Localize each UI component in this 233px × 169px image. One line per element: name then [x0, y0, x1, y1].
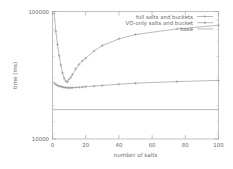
x-tick-label-80: 80	[182, 142, 189, 148]
line-chart: 100000 10000 020406080100 number of salt…	[0, 0, 233, 169]
x-tick-label-60: 60	[149, 142, 156, 148]
y-tick-label-100000: 100000	[28, 9, 49, 15]
x-axis-title: number of salts	[114, 152, 158, 158]
legend-label-2: base	[180, 26, 194, 32]
legend-label-0: full salts and buckets	[136, 14, 193, 20]
x-tick-label-40: 40	[115, 142, 122, 148]
x-tick-label-20: 20	[82, 142, 89, 148]
chart-container: 100000 10000 020406080100 number of salt…	[0, 0, 233, 169]
y-tick-label-10000: 10000	[32, 136, 50, 142]
x-tick-label-100: 100	[213, 142, 224, 148]
x-tick-label-0: 0	[51, 142, 55, 148]
y-axis-title: time (ms)	[12, 62, 18, 89]
